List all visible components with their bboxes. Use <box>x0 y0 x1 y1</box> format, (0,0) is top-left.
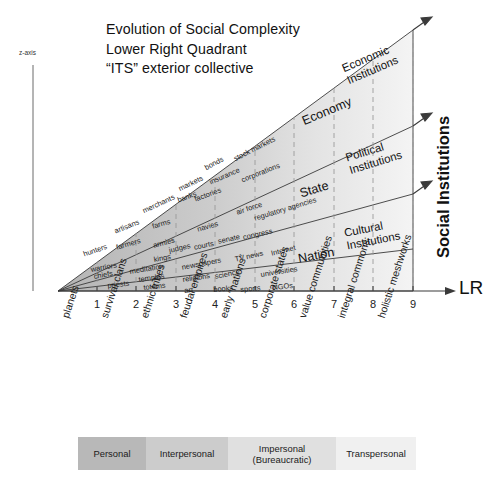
wedge-cell-label: art <box>184 285 193 295</box>
legend-segment-personal-label: Personal <box>93 448 130 459</box>
legend-segment-interpersonal: Interpersonal <box>146 437 228 470</box>
title-line-2: Lower Right Quadrant <box>106 40 366 60</box>
legend-segment-impersonal: Impersonal (Bureaucratic) <box>228 437 336 470</box>
legend-segment-interpersonal-label: Interpersonal <box>160 448 215 459</box>
band-arrows <box>413 17 432 194</box>
title-line-3: “ITS” exterior collective <box>106 59 366 79</box>
x-axis-label: LR <box>459 277 483 299</box>
legend-segment-transpersonal: Transpersonal <box>336 437 416 470</box>
legend-segment-impersonal-sublabel: (Bureaucratic) <box>253 454 312 465</box>
legend-segment-impersonal-label: Impersonal <box>253 443 312 454</box>
tick-number-9: 9 <box>402 298 424 310</box>
legend-segment-personal: Personal <box>78 437 146 470</box>
wedge-cell-label: sports <box>240 283 261 294</box>
wedge-cell-label: books <box>213 283 233 294</box>
z-axis-label: z-axis <box>19 49 36 56</box>
y-axis-label: Social Institutions <box>432 92 454 282</box>
diagram-canvas: Evolution of Social Complexity Lower Rig… <box>0 0 503 494</box>
title-line-1: Evolution of Social Complexity <box>106 20 366 40</box>
page-title: Evolution of Social Complexity Lower Rig… <box>106 20 366 79</box>
legend-bar: Personal Interpersonal Impersonal (Burea… <box>78 437 416 470</box>
legend-segment-transpersonal-label: Transpersonal <box>346 448 406 459</box>
